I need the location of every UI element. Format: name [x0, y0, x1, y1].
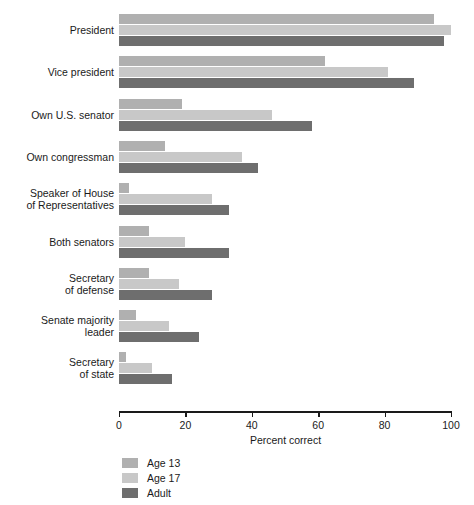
bar [119, 321, 169, 331]
x-axis-tick [385, 411, 386, 417]
bar [119, 56, 325, 66]
x-axis-tick [318, 411, 319, 417]
bar [119, 14, 434, 24]
category-label: Senate majorityleader [2, 314, 114, 338]
x-axis-tick [252, 411, 253, 417]
bar [119, 141, 165, 151]
legend-item: Age 17 [122, 470, 180, 485]
bar [119, 205, 229, 215]
legend-swatch [122, 488, 138, 498]
category-label-list: PresidentVice presidentOwn U.S. senatorO… [0, 12, 114, 410]
legend-label: Adult [147, 487, 171, 499]
chart-legend: Age 13Age 17Adult [122, 455, 180, 500]
x-axis-line [119, 411, 452, 413]
bar [119, 363, 152, 373]
bar [119, 237, 185, 247]
bar [119, 36, 444, 46]
x-axis-tick-label: 40 [232, 419, 272, 431]
x-axis-tick-label: 60 [298, 419, 338, 431]
bar [119, 194, 212, 204]
category-label: Secretaryof defense [2, 272, 114, 296]
bar [119, 183, 129, 193]
x-axis-tick-label: 100 [431, 419, 471, 431]
bar [119, 332, 199, 342]
legend-swatch [122, 473, 138, 483]
x-axis-title: Percent correct [119, 434, 452, 446]
legend-label: Age 13 [147, 457, 180, 469]
legend-item: Adult [122, 485, 180, 500]
bar [119, 99, 182, 109]
bar [119, 67, 388, 77]
category-label: Secretaryof state [2, 356, 114, 380]
bar [119, 25, 451, 35]
bar-group [119, 141, 451, 174]
bar [119, 78, 414, 88]
category-label: Speaker of Houseof Representatives [2, 187, 114, 211]
bar [119, 152, 242, 162]
bar [119, 290, 212, 300]
bar [119, 279, 179, 289]
legend-swatch [122, 458, 138, 468]
bar-group [119, 56, 451, 89]
bar [119, 268, 149, 278]
category-label: Both senators [2, 236, 114, 248]
bar-group [119, 310, 451, 343]
bar-group [119, 352, 451, 385]
x-axis-tick [185, 411, 186, 417]
legend-label: Age 17 [147, 472, 180, 484]
bar-group [119, 226, 451, 259]
x-axis-tick-label: 80 [365, 419, 405, 431]
bar [119, 248, 229, 258]
x-axis-tick-label: 0 [99, 419, 139, 431]
bar [119, 226, 149, 236]
bar-group [119, 268, 451, 301]
bar [119, 310, 136, 320]
x-axis-tick [119, 411, 120, 417]
bar [119, 352, 126, 362]
category-label: President [2, 24, 114, 36]
category-label: Vice president [2, 66, 114, 78]
bar [119, 374, 172, 384]
bar-chart: Political leader PresidentVice president… [0, 0, 474, 505]
bar [119, 110, 272, 120]
bar [119, 121, 312, 131]
bar-group [119, 99, 451, 132]
bar-group [119, 183, 451, 216]
plot-area [119, 12, 451, 410]
x-axis-tick [451, 411, 452, 417]
bar-group [119, 14, 451, 47]
bar [119, 163, 258, 173]
x-axis-tick-label: 20 [165, 419, 205, 431]
legend-item: Age 13 [122, 455, 180, 470]
category-label: Own U.S. senator [2, 109, 114, 121]
category-label: Own congressman [2, 151, 114, 163]
